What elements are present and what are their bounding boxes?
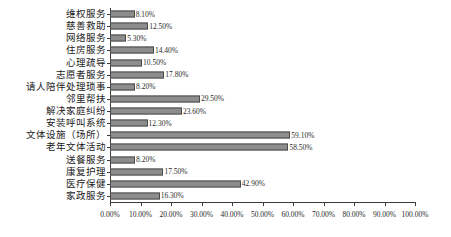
bar-row: 心理疏导10.50%	[110, 57, 415, 69]
bar-row: 老年文体活动58.50%	[110, 141, 415, 153]
category-label: 康复护理	[66, 167, 106, 177]
bar-value-label: 14.40%	[155, 46, 178, 54]
bar: 8.10%	[110, 11, 135, 18]
x-axis-tick-label: 10.00%	[129, 210, 152, 219]
category-label: 解决家庭纠纷	[46, 106, 106, 116]
category-label: 送餐服务	[66, 155, 106, 165]
bar: 12.30%	[110, 120, 148, 127]
bar-value-label: 10.50%	[143, 59, 166, 67]
bar: 17.80%	[110, 71, 164, 78]
x-axis-tick	[202, 202, 203, 206]
category-label: 老年文体活动	[46, 142, 106, 152]
x-axis-tick-label: 80.00%	[342, 210, 365, 219]
bar-value-label: 59.10%	[291, 131, 314, 139]
bar: 5.30%	[110, 35, 126, 42]
bar-value-label: 17.50%	[164, 168, 187, 176]
bar-value-label: 42.90%	[242, 180, 265, 188]
bar-value-label: 16.30%	[161, 192, 184, 200]
x-axis-tick	[385, 202, 386, 206]
x-axis-tick-label: 40.00%	[220, 210, 243, 219]
x-axis-tick-label: 60.00%	[281, 210, 304, 219]
bar-row: 送餐服务8.20%	[110, 154, 415, 166]
bar-row: 网络服务5.30%	[110, 32, 415, 44]
bar-row: 志愿者服务17.80%	[110, 69, 415, 81]
x-axis-tick	[324, 202, 325, 206]
category-label: 文体设施（场所）	[26, 130, 106, 140]
x-axis-tick-label: 100.00%	[402, 210, 429, 219]
x-axis-tick	[293, 202, 294, 206]
category-label: 心理疏导	[66, 58, 106, 68]
bar-row: 慈善救助12.50%	[110, 20, 415, 32]
category-label: 医疗保健	[66, 179, 106, 189]
x-axis-tick	[263, 202, 264, 206]
category-label: 网络服务	[66, 33, 106, 43]
bar-row: 家政服务16.30%	[110, 190, 415, 202]
bar: 16.30%	[110, 192, 160, 199]
bar-row: 解决家庭纠纷23.60%	[110, 105, 415, 117]
category-label: 志愿者服务	[56, 70, 106, 80]
x-axis-tick-label: 50.00%	[251, 210, 274, 219]
x-axis-tick-label: 70.00%	[312, 210, 335, 219]
bar: 8.20%	[110, 156, 135, 163]
bar-value-label: 12.30%	[149, 119, 172, 127]
category-label: 住房服务	[66, 45, 106, 55]
bar: 8.20%	[110, 83, 135, 90]
bar-value-label: 58.50%	[289, 143, 312, 151]
x-axis-tick	[415, 202, 416, 206]
bar-row: 康复护理17.50%	[110, 166, 415, 178]
x-axis-tick-label: 90.00%	[373, 210, 396, 219]
bar: 23.60%	[110, 108, 182, 115]
bar-row: 请人陪伴处理琐事8.20%	[110, 81, 415, 93]
x-axis-tick	[171, 202, 172, 206]
category-label: 慈善救助	[66, 21, 106, 31]
bar-value-label: 8.20%	[136, 156, 155, 164]
bar-row: 邻里帮扶29.50%	[110, 93, 415, 105]
bar-row: 文体设施（场所）59.10%	[110, 129, 415, 141]
bar-value-label: 23.60%	[183, 107, 206, 115]
bar-row: 安装呼叫系统12.30%	[110, 117, 415, 129]
bar-row: 住房服务14.40%	[110, 44, 415, 56]
x-axis-tick	[354, 202, 355, 206]
bar: 17.50%	[110, 168, 163, 175]
bar-value-label: 5.30%	[127, 34, 146, 42]
bar-chart: 维权服务8.10%慈善救助12.50%网络服务5.30%住房服务14.40%心理…	[0, 0, 451, 237]
x-axis-tick-label: 30.00%	[190, 210, 213, 219]
bar: 14.40%	[110, 47, 154, 54]
plot-area: 维权服务8.10%慈善救助12.50%网络服务5.30%住房服务14.40%心理…	[110, 8, 415, 202]
bar-row: 医疗保健42.90%	[110, 178, 415, 190]
bar-value-label: 12.50%	[149, 22, 172, 30]
category-label: 维权服务	[66, 9, 106, 19]
bar-value-label: 8.20%	[136, 83, 155, 91]
x-axis-tick-label: 20.00%	[159, 210, 182, 219]
bar-value-label: 29.50%	[201, 95, 224, 103]
bar: 42.90%	[110, 180, 241, 187]
bar: 12.50%	[110, 23, 148, 30]
x-axis-tick-label: 0.00%	[100, 210, 119, 219]
bar: 10.50%	[110, 59, 142, 66]
bar-value-label: 8.10%	[136, 10, 155, 18]
bar: 29.50%	[110, 95, 200, 102]
x-axis-tick	[110, 202, 111, 206]
category-label: 邻里帮扶	[66, 94, 106, 104]
bar-value-label: 17.80%	[165, 71, 188, 79]
x-axis-tick	[141, 202, 142, 206]
category-label: 请人陪伴处理琐事	[26, 82, 106, 92]
x-axis-tick	[232, 202, 233, 206]
bar-row: 维权服务8.10%	[110, 8, 415, 20]
category-label: 家政服务	[66, 191, 106, 201]
category-label: 安装呼叫系统	[46, 118, 106, 128]
bar: 58.50%	[110, 144, 288, 151]
bar: 59.10%	[110, 132, 290, 139]
